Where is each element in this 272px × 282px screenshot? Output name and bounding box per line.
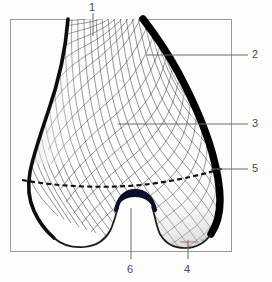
label-4: 4 bbox=[184, 264, 190, 275]
femur-illustration bbox=[0, 0, 272, 282]
label-2: 2 bbox=[252, 49, 258, 60]
label-3: 3 bbox=[252, 118, 258, 129]
shaft-shading bbox=[25, 14, 145, 164]
label-1: 1 bbox=[89, 2, 95, 13]
bone-body bbox=[22, 14, 230, 268]
label-5: 5 bbox=[252, 163, 258, 174]
label-6: 6 bbox=[127, 264, 133, 275]
figure-root: 1 2 3 5 6 4 f?. M bbox=[0, 0, 272, 282]
